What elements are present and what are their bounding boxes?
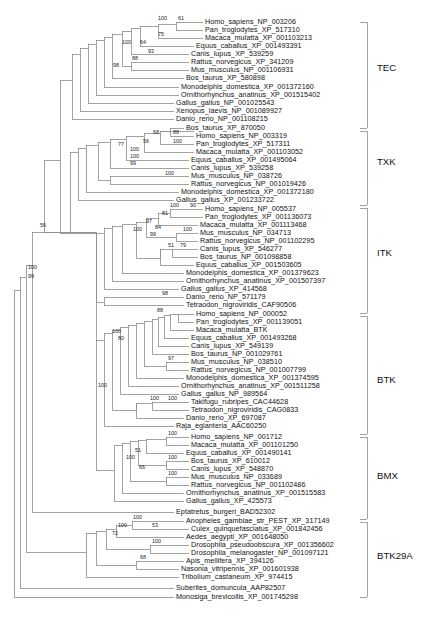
- clade-bracket: [360, 437, 367, 519]
- clade-label-itk: ITK: [377, 247, 392, 258]
- phylogenetic-tree-figure: Homo_sapiens_NP_003206Pan_troglodytes_XP…: [0, 0, 436, 620]
- clade-label-txk: TXK: [377, 156, 396, 167]
- clade-label-bmx: BMX: [377, 470, 398, 481]
- clade-bracket: [360, 131, 367, 205]
- clade-bracket: [360, 208, 367, 313]
- clade-bracket: [360, 22, 367, 128]
- clade-label-tec: TEC: [377, 62, 396, 73]
- clade-bracket: [360, 522, 367, 597]
- clade-brackets: [0, 0, 436, 620]
- clade-bracket: [360, 316, 367, 434]
- clade-label-btk29a: BTK29A: [377, 550, 413, 561]
- clade-label-btk: BTK: [377, 374, 396, 385]
